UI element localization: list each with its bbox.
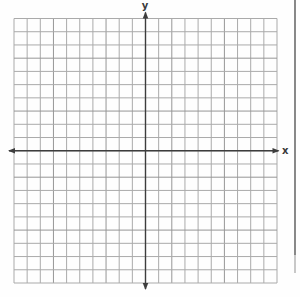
y-axis-label: y (142, 0, 149, 11)
x-axis-label: x (282, 145, 288, 156)
graph-paper-page: y x (0, 0, 300, 297)
coordinate-grid (0, 0, 300, 297)
